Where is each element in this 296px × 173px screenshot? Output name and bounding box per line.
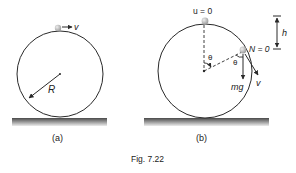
panel-a: v R (a) (12, 22, 107, 143)
ball-a (55, 25, 61, 31)
angle-arc-ball (236, 55, 243, 57)
ball-side-b (240, 47, 247, 54)
ground-b (144, 118, 269, 126)
angle-arc-center (204, 63, 211, 67)
radius-arrow-a (29, 74, 60, 98)
radius-label-a: R (48, 84, 55, 95)
ball-top-b (202, 18, 209, 25)
panel-b: u = 0 θ N = 0 θ mg v h (b) (144, 6, 287, 143)
height-label: h (282, 28, 287, 38)
figure-7-22: v R (a) u = 0 θ N = 0 θ mg v (0, 0, 296, 173)
velocity-label-b: v (256, 78, 261, 88)
figure-caption: Fig. 7.22 (131, 154, 164, 164)
normal-label: N = 0 (249, 44, 270, 54)
initial-velocity-label: u = 0 (193, 6, 212, 16)
panel-label-a: (a) (52, 133, 63, 143)
velocity-label-a: v (74, 22, 79, 32)
panel-label-b: (b) (196, 133, 207, 143)
ground-a (12, 118, 107, 126)
theta-label-center: θ (208, 53, 213, 62)
weight-label: mg (231, 82, 244, 92)
theta-label-ball: θ (233, 58, 238, 67)
